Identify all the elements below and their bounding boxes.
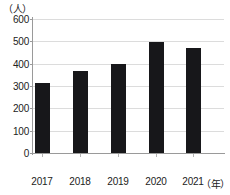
x-axis-unit-label: （年） (201, 176, 230, 191)
y-tick-label: 300 (13, 81, 29, 92)
y-tick-mark (30, 86, 33, 87)
y-tick-label: 400 (13, 59, 29, 70)
x-tick-label-2020: 2020 (145, 176, 166, 187)
plot-area: 600 500 400 300 200 100 0 (33, 19, 224, 153)
x-tick-label-2021: 2021 (182, 176, 203, 187)
y-tick-label: 200 (13, 103, 29, 114)
bar-2021 (186, 48, 201, 153)
bar-2017 (35, 83, 50, 153)
x-tick-mark-2021 (193, 154, 194, 157)
x-axis-line (32, 153, 225, 154)
bar-chart: （人） （年） 600 500 400 300 200 (0, 0, 230, 195)
y-tick-mark (30, 131, 33, 132)
x-tick-mark-2018 (80, 154, 81, 157)
x-tick-label-2017: 2017 (31, 176, 52, 187)
y-tick-mark (30, 41, 33, 42)
gridline-600 (33, 19, 224, 20)
bar-2019 (111, 64, 126, 153)
gridline-500 (33, 41, 224, 42)
bar-2020 (149, 42, 164, 153)
x-tick-label-2018: 2018 (69, 176, 90, 187)
y-tick-label: 500 (13, 36, 29, 47)
x-tick-mark-2019 (118, 154, 119, 157)
y-tick-mark (30, 153, 33, 154)
x-tick-mark-2020 (156, 154, 157, 157)
y-tick-mark (30, 108, 33, 109)
bar-2018 (73, 71, 88, 153)
y-tick-mark (30, 19, 33, 20)
y-tick-label: 600 (13, 14, 29, 25)
y-tick-label: 0 (24, 148, 29, 159)
y-tick-mark (30, 64, 33, 65)
y-tick-label: 100 (13, 126, 29, 137)
x-tick-mark-2017 (42, 154, 43, 157)
x-tick-label-2019: 2019 (107, 176, 128, 187)
